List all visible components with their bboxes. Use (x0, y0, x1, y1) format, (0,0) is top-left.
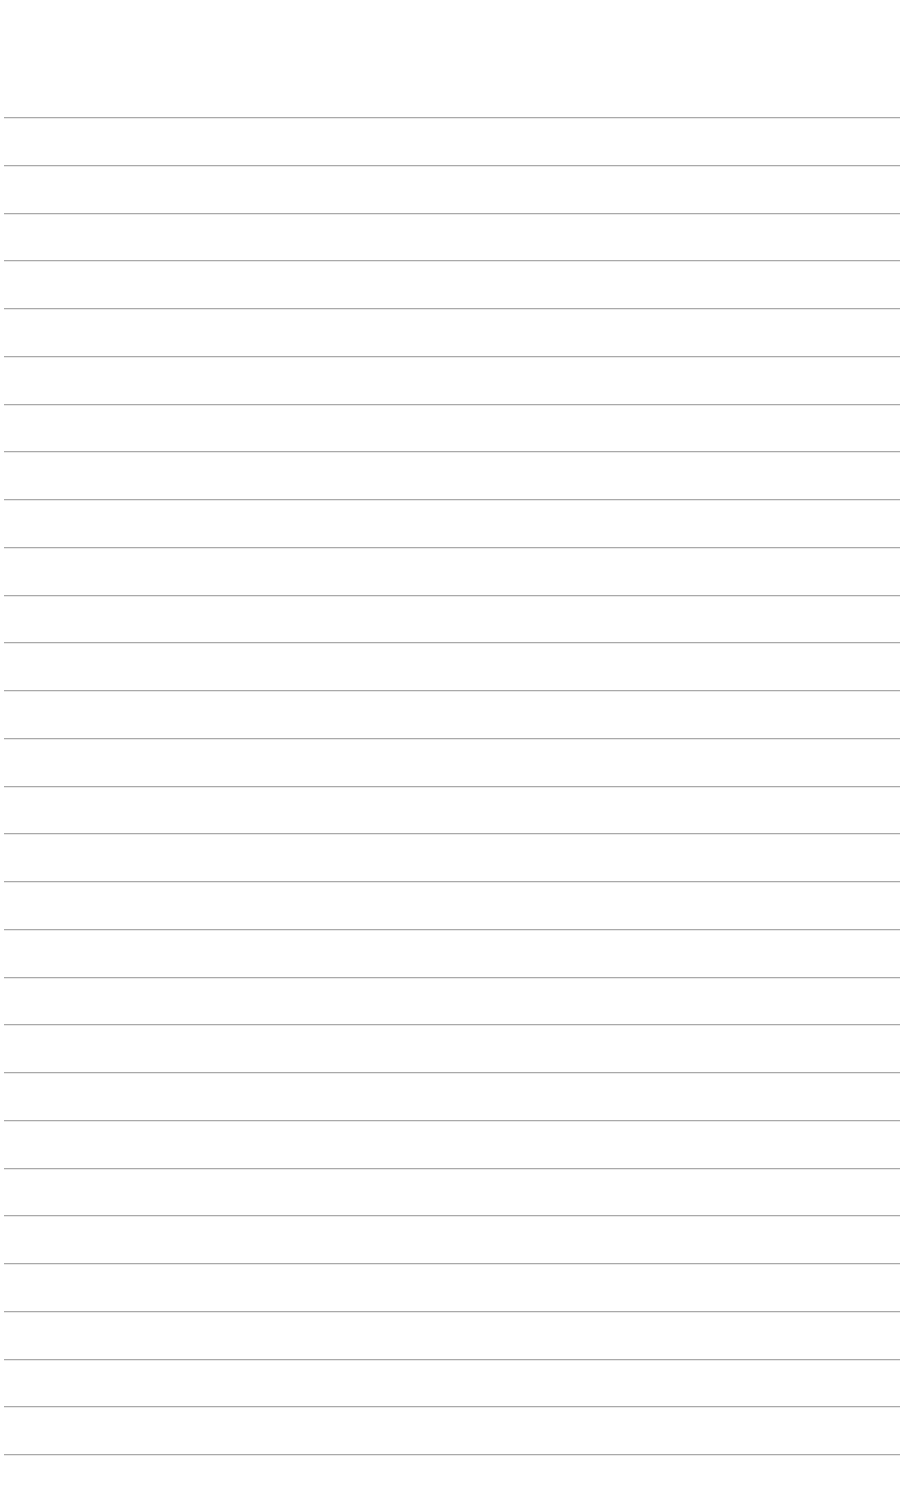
ruled-line (4, 881, 900, 882)
ruled-line (4, 1072, 900, 1073)
ruled-line (4, 451, 900, 452)
ruled-line (4, 1311, 900, 1312)
ruled-line (4, 499, 900, 500)
ruled-line (4, 1024, 900, 1025)
ruled-line (4, 356, 900, 357)
ruled-line (4, 1406, 900, 1407)
ruled-line (4, 833, 900, 834)
ruled-line (4, 690, 900, 691)
ruled-line (4, 1215, 900, 1216)
ruled-line (4, 595, 900, 596)
lined-paper-page (0, 0, 904, 1485)
ruled-line (4, 1454, 900, 1455)
ruled-line (4, 117, 900, 118)
ruled-line (4, 260, 900, 261)
ruled-line (4, 1120, 900, 1121)
ruled-line (4, 1359, 900, 1360)
ruled-line (4, 165, 900, 166)
ruled-line (4, 786, 900, 787)
ruled-line (4, 1263, 900, 1264)
ruled-line (4, 1168, 900, 1169)
ruled-line (4, 977, 900, 978)
ruled-line (4, 213, 900, 214)
ruled-line (4, 929, 900, 930)
ruled-line (4, 738, 900, 739)
ruled-line (4, 547, 900, 548)
ruled-line (4, 308, 900, 309)
ruled-line (4, 404, 900, 405)
ruled-line (4, 642, 900, 643)
